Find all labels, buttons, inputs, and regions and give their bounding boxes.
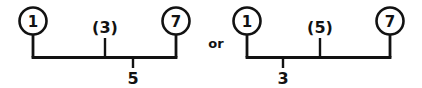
below-label-left: 5: [127, 69, 138, 87]
bracket-diagram-svg: 1 7 (3) 5 or: [0, 0, 422, 87]
node-left-end-label: 7: [171, 13, 181, 31]
node-left-end: 7: [163, 8, 190, 58]
node-right-end-label: 7: [385, 13, 395, 31]
above-label-right: (5): [307, 18, 333, 37]
node-left-start: 1: [20, 8, 47, 58]
conjunction-or: or: [208, 36, 224, 51]
above-label-left: (3): [92, 18, 118, 37]
node-right-start-label: 1: [242, 13, 252, 31]
figure-root: 1 7 (3) 5 or: [0, 0, 422, 87]
diagram-right: 1 7 (5) 3: [234, 8, 404, 88]
diagram-left: 1 7 (3) 5: [20, 8, 190, 88]
below-label-right: 3: [277, 69, 288, 87]
node-left-start-label: 1: [28, 13, 38, 31]
node-right-end: 7: [377, 8, 404, 58]
node-right-start: 1: [234, 8, 261, 58]
